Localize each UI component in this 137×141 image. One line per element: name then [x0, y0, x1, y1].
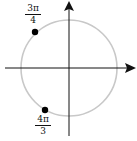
point-3pi-4 [32, 29, 38, 35]
label-4pi-3-denominator: 3 [35, 126, 51, 136]
label-4pi-3-numerator: 4π [35, 115, 51, 126]
label-3pi-4-denominator: 4 [25, 15, 41, 25]
label-3pi-4: 3π 4 [25, 4, 41, 25]
label-3pi-4-numerator: 3π [25, 4, 41, 15]
unit-circle-diagram [0, 0, 137, 141]
label-4pi-3: 4π 3 [35, 115, 51, 136]
point-4pi-3 [42, 107, 48, 113]
